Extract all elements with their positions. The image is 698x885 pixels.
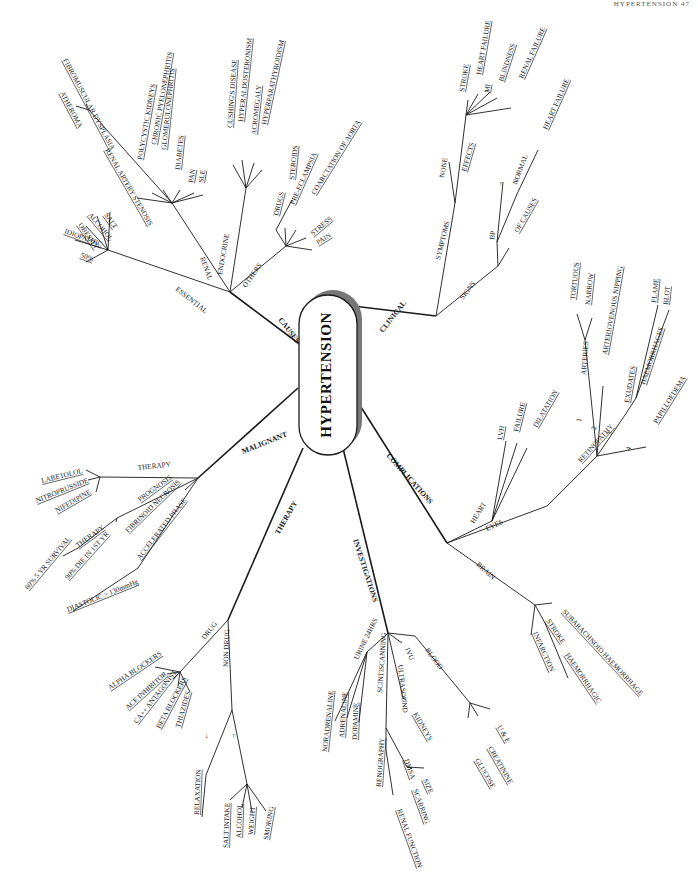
- branch-line: [232, 710, 247, 784]
- node-nhf[interactable]: HEART FAILURE: [542, 77, 572, 131]
- node-endocrine[interactable]: ENDOCRINE: [216, 232, 231, 275]
- node-exud[interactable]: EXUDATES: [623, 365, 637, 403]
- node-flame[interactable]: FLAME: [650, 278, 661, 304]
- node-ofcauses[interactable]: OF CAUSES: [513, 197, 539, 234]
- label-underline: [316, 123, 362, 196]
- node-dilat[interactable]: DILATATION: [532, 388, 560, 429]
- node-brain[interactable]: BRAIN: [475, 561, 498, 582]
- branch-labels: CAUSESCLINICALCOMPLICATIONSINVESTIGATION…: [23, 19, 688, 869]
- node-kidneys[interactable]: KIDNEYS: [411, 711, 434, 742]
- node-renf[interactable]: RENAL FAILURE: [518, 25, 548, 79]
- node-adr[interactable]: ADRENALINE: [338, 691, 349, 738]
- node-others[interactable]: OTHERS: [241, 262, 264, 289]
- node-label: THERAPY: [273, 499, 300, 536]
- node-normal[interactable]: NORMAL: [511, 154, 529, 186]
- node-narrow[interactable]: NARROW: [584, 272, 595, 305]
- node-blood[interactable]: BLOOD: [423, 646, 444, 671]
- node-haemorrhagic[interactable]: HAEMORRHAGIC: [563, 652, 603, 705]
- node-subarach[interactable]: SUBARACHNOID HAEMORRHAGE: [561, 608, 646, 698]
- node-hfail[interactable]: HEART FAILURE: [475, 19, 493, 75]
- node-glucose[interactable]: GLUCOSE: [473, 757, 497, 790]
- node-infarct[interactable]: INFARCTION: [531, 631, 556, 674]
- center-node[interactable]: HYPERTENSION: [299, 290, 362, 455]
- node-weight[interactable]: WEIGHT: [247, 806, 257, 835]
- node-s60[interactable]: 60% 5 YR SURVIVAL: [23, 535, 72, 591]
- node-acc[interactable]: ACCELERATED PHASE: [135, 496, 188, 561]
- node-blind[interactable]: BLINDNESS: [497, 43, 517, 83]
- node-diab[interactable]: DIABETES: [174, 135, 186, 170]
- node-label: CLINICAL: [377, 299, 407, 334]
- node-bstroke[interactable]: STROKE: [544, 618, 567, 646]
- node-signs[interactable]: SIGNS: [458, 280, 477, 301]
- node-relax[interactable]: RELAXATION: [193, 768, 203, 815]
- node-pan[interactable]: PAN: [187, 168, 197, 184]
- node-failure[interactable]: FAILURE: [512, 401, 527, 432]
- node-up[interactable]: ↑: [499, 180, 503, 188]
- node-noradr[interactable]: NORADRENALINE: [321, 690, 335, 753]
- node-haem[interactable]: HAEMORRHAGES: [639, 326, 665, 385]
- node-dop[interactable]: DOPAMINE: [351, 702, 360, 740]
- branch-line: [276, 230, 286, 246]
- node-none[interactable]: NONE: [438, 157, 449, 179]
- node-rfunc[interactable]: RENAL FUNCTION: [395, 808, 424, 870]
- node-hypth[interactable]: HYPERPARATHYROIDISM: [260, 39, 286, 126]
- branch-line: [206, 710, 232, 775]
- node-heart[interactable]: HEART: [469, 500, 489, 525]
- node-alco2[interactable]: ALCOHOL: [235, 803, 244, 838]
- node-ue[interactable]: U & E: [495, 724, 512, 745]
- node-smoke[interactable]: SMOKING: [262, 806, 276, 840]
- node-size[interactable]: SIZE: [421, 778, 435, 796]
- node-label: FAILURE: [512, 401, 527, 432]
- node-bp[interactable]: BP: [488, 230, 497, 240]
- node-nd_right[interactable]: ↑: [232, 732, 236, 740]
- node-nd_left[interactable]: ↓: [205, 732, 209, 740]
- node-label: STEROIDS: [288, 145, 300, 180]
- node-dmsa[interactable]: DMSA: [402, 758, 417, 781]
- node-ivu[interactable]: IVU: [403, 647, 416, 663]
- node-drug[interactable]: DRUG: [200, 620, 219, 641]
- node-label: EXUDATES: [623, 365, 637, 403]
- node-label: BLINDNESS: [497, 43, 517, 83]
- node-label: COMPLICATIONS: [385, 451, 435, 506]
- node-label: EFFECTS: [460, 142, 476, 173]
- node-investigations[interactable]: INVESTIGATIONS: [351, 538, 380, 603]
- node-ultra[interactable]: ULTRASOUND: [396, 664, 409, 713]
- node-sle[interactable]: SLE: [197, 169, 207, 184]
- node-n1[interactable]: 1: [575, 417, 583, 422]
- branch-line: [286, 246, 312, 250]
- node-e_50[interactable]: 50%: [79, 251, 94, 263]
- node-drugs[interactable]: DRUGS: [272, 191, 286, 217]
- node-nondrug[interactable]: NON DRUG: [222, 629, 231, 667]
- node-dia[interactable]: DIASTOLIC > 130mmHg: [66, 578, 140, 614]
- node-label: IVU: [403, 647, 416, 663]
- node-hyald[interactable]: HYPERALDOSTERONISM: [237, 37, 254, 122]
- node-eyes[interactable]: EYES: [485, 518, 505, 533]
- node-papill[interactable]: PAPILLOEDEMA: [652, 374, 688, 425]
- node-coa[interactable]: COARCTATION OF AORTA: [310, 118, 363, 196]
- node-blot[interactable]: BLOT: [662, 285, 672, 305]
- node-m_ther[interactable]: THERAPY: [137, 460, 172, 472]
- node-label: HYPERALDOSTERONISM: [237, 37, 254, 122]
- node-label: BRAIN: [475, 561, 498, 582]
- node-ster[interactable]: STEROIDS: [288, 145, 300, 180]
- node-essential[interactable]: ESSENTIAL: [174, 285, 209, 315]
- node-label: ACROMEGALY: [250, 84, 263, 135]
- node-reno[interactable]: RENOGRAPHY: [375, 737, 386, 787]
- node-clinical[interactable]: CLINICAL: [377, 299, 407, 334]
- node-saltint[interactable]: SALT INTAKE: [222, 802, 232, 848]
- node-tort[interactable]: TORTUOUS: [569, 262, 581, 300]
- node-avn[interactable]: ARTERIOVENOUS NIPPING: [601, 265, 625, 355]
- node-acro[interactable]: ACROMEGALY: [250, 84, 263, 135]
- node-stroke[interactable]: STROKE: [458, 63, 471, 93]
- branch-line: [285, 228, 286, 246]
- node-lvh[interactable]: LVH: [496, 425, 506, 440]
- node-scint[interactable]: SCINTISCANNING: [376, 632, 388, 693]
- node-complications[interactable]: COMPLICATIONS: [385, 451, 435, 506]
- node-effects[interactable]: EFFECTS: [460, 142, 476, 173]
- node-renal[interactable]: RENAL: [198, 256, 214, 281]
- branch-line: [492, 448, 527, 521]
- node-label: PAPILLOEDEMA: [652, 374, 688, 425]
- node-arteries[interactable]: ARTERIES: [580, 341, 590, 375]
- node-mi[interactable]: MI: [483, 83, 493, 94]
- node-therapy[interactable]: THERAPY: [273, 499, 300, 536]
